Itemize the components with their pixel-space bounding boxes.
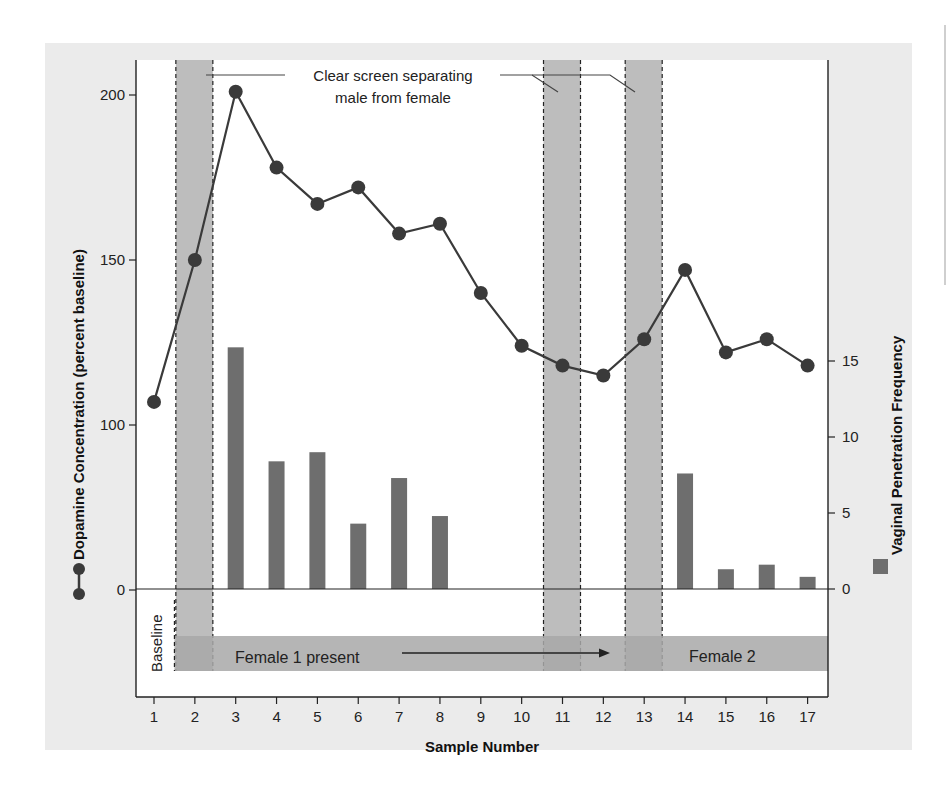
data-point: [351, 180, 365, 194]
right-tick-label: 0: [842, 580, 850, 597]
bar: [677, 473, 693, 589]
left-tick-label: 200: [100, 86, 125, 103]
y-axis-title-left: Dopamine Concentration (percent baseline…: [70, 249, 87, 560]
data-point: [760, 332, 774, 346]
y-axis-title-right: Vaginal Penetration Frequency: [888, 335, 905, 555]
x-tick-label: 4: [272, 708, 280, 725]
x-tick-label: 17: [799, 708, 816, 725]
data-point: [188, 253, 202, 267]
x-tick-label: 5: [313, 708, 321, 725]
left-tick-label: 150: [100, 251, 125, 268]
x-tick-label: 11: [555, 708, 571, 725]
legend-line-marker-icon: [73, 563, 85, 600]
x-tick-label: 6: [354, 708, 362, 725]
x-tick-label: 9: [477, 708, 485, 725]
left-tick-label: 0: [117, 581, 125, 598]
right-tick-label: 10: [842, 428, 859, 445]
data-point: [474, 286, 488, 300]
female2-label: Female 2: [689, 648, 756, 665]
left-tick-label: 100: [100, 416, 125, 433]
x-tick-label: 15: [718, 708, 735, 725]
x-tick-label: 8: [436, 708, 444, 725]
right-tick-label: 5: [842, 504, 850, 521]
right-tick-label: 15: [842, 352, 859, 369]
female1-label: Female 1 present: [235, 649, 360, 666]
data-point: [719, 345, 733, 359]
annotation-text: male from female: [335, 89, 451, 106]
data-point: [147, 395, 161, 409]
chart: 0100150200051015123456789101112131415161…: [0, 0, 948, 812]
x-tick-label: 14: [677, 708, 694, 725]
legend-bar-swatch-icon: [873, 559, 888, 574]
bar: [350, 524, 366, 589]
bar: [759, 565, 775, 589]
data-point: [229, 85, 243, 99]
x-tick-label: 3: [232, 708, 240, 725]
bar: [432, 516, 448, 589]
data-point: [556, 359, 570, 373]
bar: [269, 461, 285, 589]
bar: [391, 478, 407, 589]
annotation-text: Clear screen separating: [313, 67, 472, 84]
bar: [228, 347, 244, 589]
x-axis-title: Sample Number: [425, 738, 539, 755]
data-point: [596, 369, 610, 383]
screen-shade: [176, 60, 213, 671]
x-tick-label: 7: [395, 708, 403, 725]
screen-shade: [625, 60, 662, 671]
data-point: [515, 339, 529, 353]
bar: [718, 569, 734, 589]
x-tick-label: 16: [758, 708, 775, 725]
x-tick-label: 1: [150, 708, 158, 725]
data-point: [392, 227, 406, 241]
data-point: [310, 197, 324, 211]
bar: [800, 577, 816, 589]
x-tick-label: 2: [191, 708, 199, 725]
data-point: [637, 332, 651, 346]
x-tick-label: 10: [513, 708, 530, 725]
x-tick-label: 12: [595, 708, 612, 725]
bar: [309, 452, 325, 589]
data-point: [270, 161, 284, 175]
data-point: [433, 217, 447, 231]
data-point: [678, 263, 692, 277]
x-tick-label: 13: [636, 708, 653, 725]
baseline-label: Baseline: [148, 614, 165, 672]
data-point: [801, 359, 815, 373]
